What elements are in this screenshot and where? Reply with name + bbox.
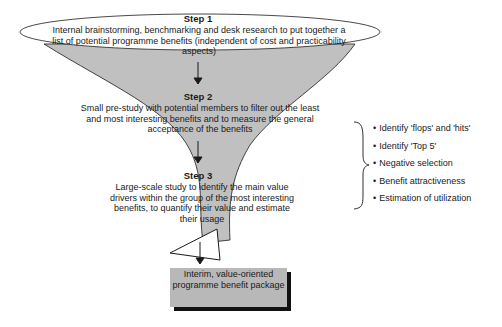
methods-list: Identify 'flops' and 'hits' Identify 'To…: [373, 122, 471, 210]
method-item: Identify 'flops' and 'hits': [373, 122, 471, 140]
method-item: Negative selection: [373, 157, 471, 175]
method-item: Identify 'Top 5': [373, 140, 471, 158]
method-item: Benefit attractiveness: [373, 175, 471, 193]
method-item: Estimation of utilization: [373, 192, 471, 210]
step-2-title: Step 2: [148, 91, 248, 102]
triangle-outlet: [170, 229, 220, 260]
result-package-box: Interim, value-oriented programme benefi…: [170, 268, 287, 307]
step-1-title: Step 1: [148, 13, 248, 24]
curly-brace-icon: [354, 122, 369, 209]
result-package-text: Interim, value-oriented programme benefi…: [172, 269, 284, 290]
step-1-text: Internal brainstorming, benchmarking and…: [48, 25, 350, 57]
step-3-text: Large-scale study to identify the main v…: [104, 182, 300, 224]
step-2-text: Small pre-study with potential members t…: [80, 103, 320, 135]
step-3-title: Step 3: [148, 170, 248, 181]
